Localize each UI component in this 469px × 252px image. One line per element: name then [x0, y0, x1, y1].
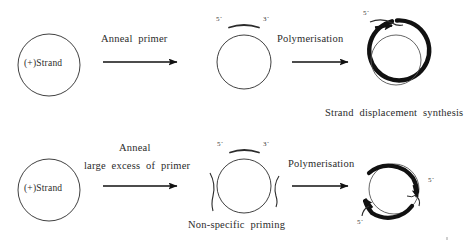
row1-primed-circle: [217, 25, 271, 89]
row2-primer-three-prime-label: 3´: [263, 140, 269, 148]
page-artifact-speck: [446, 237, 448, 240]
row1-displacement-circle: [369, 20, 429, 85]
row1-primer-three-prime-label: 3´: [263, 15, 269, 23]
row1-polymerisation-label: Polymerisation: [277, 33, 343, 44]
diagram-vector-layer: [0, 0, 469, 252]
row2-multidisplacement-circle: [362, 164, 420, 218]
row2-start-strand-label: (+)Strand: [24, 183, 62, 193]
diagram-canvas: (+)Strand Anneal primer 5´ 3´ Polymerisa…: [0, 0, 469, 252]
row2-multiprimed-circle: [210, 150, 279, 213]
row1-strand-displacement-caption: Strand displacement synthesis: [325, 107, 463, 118]
row1-anneal-primer-label: Anneal primer: [101, 33, 168, 44]
row2-nonspecific-priming-caption: Non-specific priming: [188, 219, 285, 230]
row2-anneal-label: Anneal: [119, 142, 151, 153]
row2-end-five-prime-left-label: 5´: [357, 218, 363, 226]
row2-large-excess-label: large excess of primer: [84, 160, 190, 171]
row2-end-five-prime-right-label: 5´: [428, 176, 434, 184]
row2-polymerisation-label: Polymerisation: [288, 158, 354, 169]
row1-end-five-prime-label: 5´: [363, 9, 369, 17]
row2-primer-five-prime-label: 5´: [217, 140, 223, 148]
row1-primer-five-prime-label: 5´: [216, 15, 222, 23]
row1-start-strand-label: (+)Strand: [24, 58, 62, 68]
